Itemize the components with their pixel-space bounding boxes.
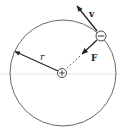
velocity-label: v [88, 9, 95, 19]
radius-label: r [40, 52, 45, 62]
electron [96, 31, 106, 41]
force-dashed-line [66, 56, 80, 69]
radius-arrow [15, 52, 58, 72]
nucleus [58, 69, 67, 78]
force-arrow [82, 40, 97, 54]
atom-orbit-diagram: r F v [0, 0, 120, 137]
force-label: F [91, 53, 98, 63]
